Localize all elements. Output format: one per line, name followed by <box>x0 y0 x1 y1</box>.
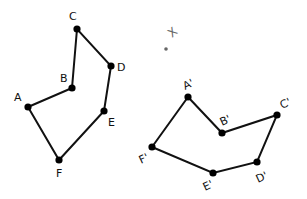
original-point-b <box>68 84 75 91</box>
rotation-diagram: ABCDEFA'B'C'D'E'F' X <box>0 0 307 199</box>
image-point-b-prime <box>218 129 225 136</box>
image-label-a-prime: A' <box>181 76 196 92</box>
original-label-b: B <box>60 72 68 85</box>
diagram-canvas: ABCDEFA'B'C'D'E'F' X <box>0 0 307 199</box>
vertex-labels: ABCDEFA'B'C'D'E'F' <box>14 10 293 194</box>
image-point-a-prime <box>184 93 191 100</box>
image-label-f-prime: F' <box>137 151 151 167</box>
image-label-e-prime: E' <box>201 178 216 194</box>
original-label-a: A <box>14 91 22 104</box>
original-point-c <box>73 25 80 32</box>
image-point-f-prime <box>148 143 155 150</box>
image-point-e-prime <box>209 169 216 176</box>
image-point-d-prime <box>253 158 260 165</box>
original-label-e: E <box>108 116 115 129</box>
original-label-c: C <box>69 10 77 23</box>
image-label-c-prime: C' <box>278 95 293 111</box>
vertex-points <box>24 25 280 176</box>
image-label-d-prime: D' <box>254 169 270 186</box>
center-of-rotation-dot <box>164 47 168 51</box>
original-point-f <box>55 156 62 163</box>
original-point-e <box>100 107 107 114</box>
original-label-f: F <box>56 167 62 180</box>
original-point-d <box>107 62 114 69</box>
image-label-b-prime: B' <box>218 112 233 128</box>
original-label-d: D <box>117 61 125 74</box>
original-point-a <box>24 103 31 110</box>
image-point-c-prime <box>273 111 280 118</box>
center-label: X <box>165 24 180 40</box>
original-polygon <box>28 29 111 160</box>
